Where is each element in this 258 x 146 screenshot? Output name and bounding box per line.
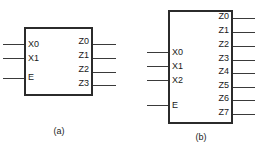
output-label-b-z4: Z4 [211,67,229,76]
output-wire-a-z1 [93,58,116,59]
output-wire-b-z4 [233,73,255,74]
input-label-a-e: E [28,73,34,82]
figure-caption-b: (b) [182,132,220,142]
figure-canvas: X0X1EZ0Z1Z2Z3(a)X0X1X2EZ0Z1Z2Z3Z4Z5Z6Z7(… [0,0,258,146]
output-label-a-z0: Z0 [71,37,89,46]
output-label-a-z1: Z1 [71,51,89,60]
output-wire-a-z0 [93,44,116,45]
input-label-a-x0: X0 [28,40,39,49]
input-wire-b-e [147,105,168,106]
input-label-b-e: E [172,101,178,110]
output-wire-b-z7 [233,114,255,115]
output-label-b-z7: Z7 [211,108,229,117]
input-wire-a-x1 [3,58,24,59]
output-wire-b-z0 [233,18,255,19]
input-label-b-x0: X0 [172,48,183,57]
output-wire-a-z3 [93,85,116,86]
output-label-b-z1: Z1 [211,26,229,35]
output-label-b-z5: Z5 [211,81,229,90]
output-wire-b-z6 [233,100,255,101]
output-label-a-z3: Z3 [71,79,89,88]
input-label-b-x1: X1 [172,62,183,71]
input-wire-b-x1 [147,66,168,67]
figure-caption-a: (a) [40,126,78,136]
input-label-a-x1: X1 [28,54,39,63]
input-wire-b-x2 [147,80,168,81]
output-wire-b-z5 [233,87,255,88]
input-label-b-x2: X2 [172,76,183,85]
output-wire-b-z3 [233,60,255,61]
output-wire-b-z1 [233,32,255,33]
output-label-b-z3: Z3 [211,54,229,63]
input-wire-a-x0 [3,44,24,45]
input-wire-b-x0 [147,52,168,53]
output-label-b-z6: Z6 [211,94,229,103]
output-label-b-z2: Z2 [211,40,229,49]
output-label-a-z2: Z2 [71,65,89,74]
output-wire-b-z2 [233,46,255,47]
output-wire-a-z2 [93,72,116,73]
output-label-b-z0: Z0 [211,12,229,21]
input-wire-a-e [3,78,24,79]
